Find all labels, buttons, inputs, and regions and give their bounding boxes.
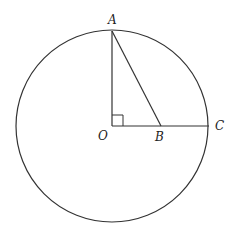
geometry-diagram: A O B C — [0, 0, 233, 231]
label-B: B — [154, 130, 164, 144]
segment-AB — [112, 31, 161, 126]
label-A: A — [107, 13, 117, 27]
label-C: C — [215, 119, 224, 133]
label-O: O — [98, 129, 108, 143]
right-angle-marker — [112, 115, 123, 126]
